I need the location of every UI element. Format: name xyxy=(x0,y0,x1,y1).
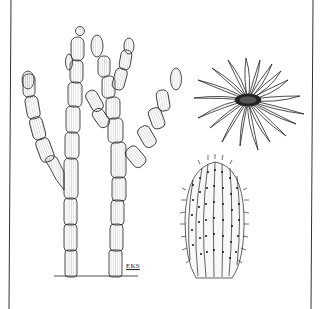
cactus-illustration xyxy=(0,0,329,309)
cactus-flower xyxy=(194,58,304,150)
right-border xyxy=(311,0,313,309)
left-border xyxy=(9,0,11,309)
branching-cactus xyxy=(22,27,182,278)
barrel-cactus xyxy=(180,154,249,278)
artist-signature: EKS xyxy=(126,262,140,270)
